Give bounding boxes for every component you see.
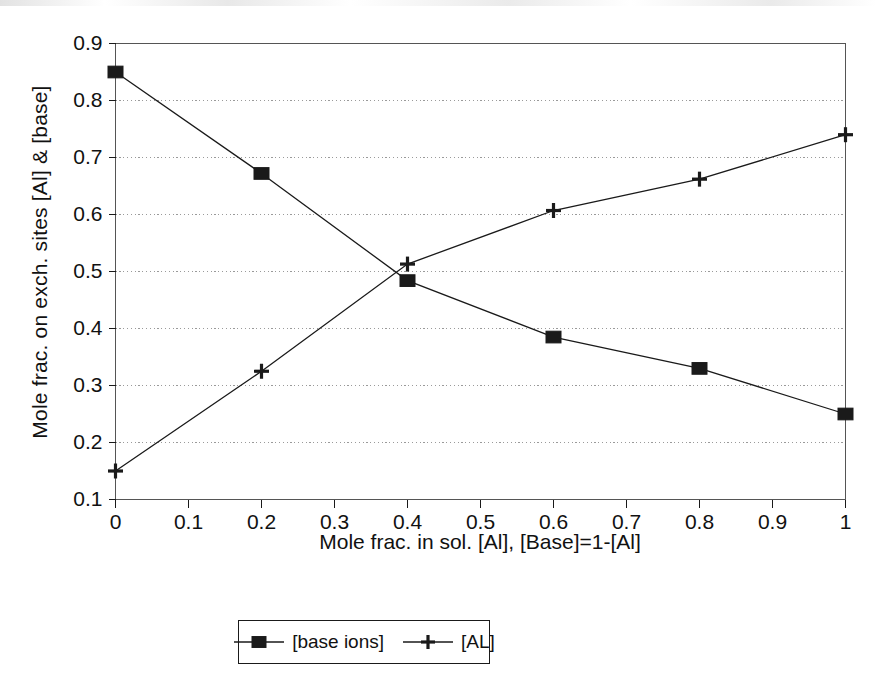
x-tick-label: 0.8 bbox=[670, 510, 730, 534]
square-marker-icon bbox=[233, 632, 285, 652]
gridlines bbox=[116, 101, 846, 443]
x-tick-label: 0.5 bbox=[451, 510, 511, 534]
y-tick-label: 0.8 bbox=[53, 88, 103, 112]
y-tick-label: 0.7 bbox=[53, 145, 103, 169]
y-tick-label: 0.5 bbox=[53, 259, 103, 283]
x-tick-label: 1 bbox=[816, 510, 876, 534]
legend-label: [base ions] bbox=[292, 631, 384, 653]
plus-marker-icon bbox=[402, 632, 454, 652]
legend-entry: [AL] bbox=[402, 631, 495, 653]
chart-figure: Mole frac. on exch. sites [Al] & [base] … bbox=[0, 0, 876, 696]
legend-entry: [base ions] bbox=[233, 631, 384, 653]
x-tick-label: 0 bbox=[86, 510, 146, 534]
axis-ticks bbox=[109, 44, 846, 508]
data-series-layer bbox=[108, 66, 853, 478]
chart-legend: [base ions][AL] bbox=[238, 620, 490, 664]
plot-canvas bbox=[0, 0, 876, 696]
x-tick-label: 0.3 bbox=[305, 510, 365, 534]
y-tick-label: 0.4 bbox=[53, 316, 103, 340]
y-tick-label: 0.3 bbox=[53, 373, 103, 397]
y-tick-label: 0.2 bbox=[53, 430, 103, 454]
x-tick-label: 0.1 bbox=[159, 510, 219, 534]
legend-label: [AL] bbox=[461, 631, 495, 653]
x-tick-label: 0.7 bbox=[597, 510, 657, 534]
y-tick-label: 0.6 bbox=[53, 202, 103, 226]
x-tick-label: 0.2 bbox=[232, 510, 292, 534]
y-tick-label: 0.1 bbox=[53, 487, 103, 511]
x-tick-label: 0.4 bbox=[378, 510, 438, 534]
x-tick-label: 0.9 bbox=[743, 510, 803, 534]
x-tick-label: 0.6 bbox=[524, 510, 584, 534]
y-tick-label: 0.9 bbox=[53, 31, 103, 55]
